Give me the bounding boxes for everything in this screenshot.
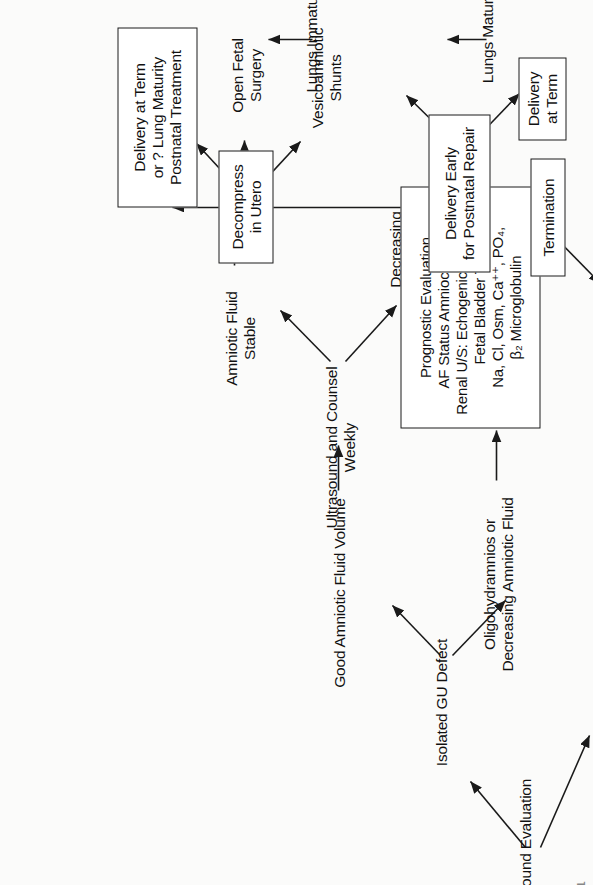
node-vesicoamniotic-shunts: Vesicoamniotic Shunts — [308, 0, 344, 155]
box-decompress-in-utero: Decompress in Utero — [218, 150, 273, 263]
box-delivery-at-term: Delivery at Term — [518, 57, 566, 140]
box-delivery-early-for-postnatal-repair: Delivery Early for Postnatal Repair — [428, 114, 490, 272]
node-ultrasound-and-counsel-weekly: Ultrasound and Counsel Weekly — [322, 357, 358, 537]
connector-layer — [0, 0, 593, 885]
node-ultrasound-evaluation: Ultrasound Evaluation — [516, 757, 534, 885]
box-delivery-at-term-postnatal-treatment: Delivery at Term or ? Lung Maturity Post… — [117, 27, 197, 207]
node-open-fetal-surgery: Open Fetal Surgery — [228, 15, 264, 135]
box-termination: Termination — [530, 158, 565, 276]
figure-caption: FIG. 41-11 — [575, 881, 587, 885]
node-isolated-gu-defect: Isolated GU Defect — [432, 627, 450, 777]
edge-us-to-other-defects — [540, 735, 589, 847]
edge-uscounsel-to-stable — [280, 310, 330, 361]
node-oligohydramnios: Oligohydramnios or Decreasing Amniotic F… — [480, 475, 516, 693]
node-amniotic-fluid-stable: Amniotic Fluid Stable — [222, 263, 258, 413]
node-lungs-mature: Lungs Mature — [478, 0, 496, 99]
flowchart-canvas: Ultrasound Evaluation Isolated GU Defect… — [0, 0, 593, 885]
